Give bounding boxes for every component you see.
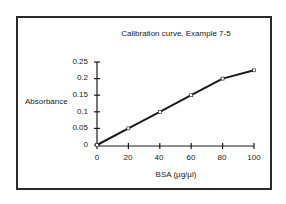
data-point-marker xyxy=(190,94,193,97)
data-point-marker xyxy=(158,110,161,113)
series-line xyxy=(97,70,254,145)
data-point-marker xyxy=(127,127,130,130)
data-point-marker xyxy=(253,69,256,72)
axes xyxy=(94,62,254,149)
data-point-marker xyxy=(221,77,224,80)
data-series xyxy=(96,69,256,147)
data-point-marker xyxy=(96,144,99,147)
plot-area xyxy=(0,0,286,204)
